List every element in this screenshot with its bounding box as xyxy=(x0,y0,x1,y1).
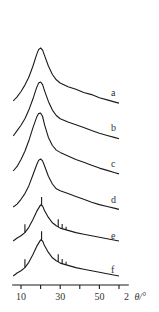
series-label-d: d xyxy=(111,194,116,205)
series-label-f: f xyxy=(111,264,115,275)
xrd-chart: abcdef 103050 2 θ/° xyxy=(0,0,159,312)
series-label-e: e xyxy=(111,230,116,241)
x-axis-label-symbol: θ/° xyxy=(134,291,146,302)
x-axis-tick-labels: 103050 xyxy=(16,291,104,302)
curves-group xyxy=(13,48,119,276)
x-tick-label-30: 30 xyxy=(55,291,65,302)
series-line-b xyxy=(13,82,119,139)
series-labels: abcdef xyxy=(111,87,116,275)
x-axis-label: 2 θ/° xyxy=(124,291,146,302)
series-label-a: a xyxy=(111,87,116,98)
x-axis-label-prefix: 2 xyxy=(124,291,129,302)
x-tick-label-50: 50 xyxy=(94,291,104,302)
x-tick-label-10: 10 xyxy=(16,291,26,302)
series-line-e xyxy=(13,205,119,241)
series-line-c xyxy=(13,113,119,174)
series-line-f xyxy=(13,240,119,276)
series-line-a xyxy=(13,48,119,103)
series-line-d xyxy=(13,159,119,209)
series-label-b: b xyxy=(111,122,116,133)
x-axis: 103050 2 θ/° xyxy=(12,285,146,302)
series-label-c: c xyxy=(111,158,116,169)
